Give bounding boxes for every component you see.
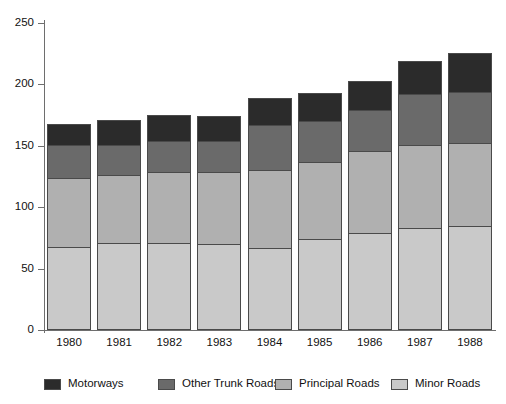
bar-segment-motorways[interactable] <box>348 81 392 110</box>
bar-segment-other-trunk-roads[interactable] <box>448 92 492 144</box>
bar-segment-minor-roads[interactable] <box>448 226 492 330</box>
bar-segment-other-trunk-roads[interactable] <box>197 141 241 172</box>
bottom-spacer <box>0 400 506 404</box>
bar-segment-minor-roads[interactable] <box>47 247 91 331</box>
bar-segment-minor-roads[interactable] <box>147 243 191 330</box>
bar-segment-other-trunk-roads[interactable] <box>398 94 442 144</box>
bar-segment-other-trunk-roads[interactable] <box>47 145 91 178</box>
bar-segment-other-trunk-roads[interactable] <box>147 141 191 172</box>
bar-segment-principal-roads[interactable] <box>197 172 241 244</box>
bar-segment-minor-roads[interactable] <box>398 228 442 330</box>
bar-segment-minor-roads[interactable] <box>197 244 241 330</box>
legend-swatch-icon <box>44 379 61 390</box>
legend-label: Other Trunk Roads <box>182 378 279 390</box>
bar-segment-principal-roads[interactable] <box>248 170 292 247</box>
legend-label: Motorways <box>68 378 124 390</box>
plot-area <box>44 23 495 330</box>
bar-segment-minor-roads[interactable] <box>248 248 292 330</box>
bar-segment-other-trunk-roads[interactable] <box>298 121 342 162</box>
bar-1982[interactable] <box>147 115 191 330</box>
bar-segment-motorways[interactable] <box>248 98 292 125</box>
bar-segment-motorways[interactable] <box>398 61 442 94</box>
bar-1983[interactable] <box>197 116 241 330</box>
bar-segment-other-trunk-roads[interactable] <box>248 125 292 170</box>
bar-segment-other-trunk-roads[interactable] <box>97 145 141 176</box>
legend-item-motorways[interactable]: Motorways <box>44 376 124 392</box>
bar-segment-motorways[interactable] <box>97 120 141 145</box>
bar-segment-motorways[interactable] <box>147 115 191 141</box>
bar-1988[interactable] <box>448 53 492 330</box>
chart-legend: MotorwaysOther Trunk RoadsPrincipal Road… <box>0 372 506 396</box>
bar-segment-principal-roads[interactable] <box>348 151 392 233</box>
bar-segment-principal-roads[interactable] <box>298 162 342 239</box>
bar-segment-other-trunk-roads[interactable] <box>348 110 392 151</box>
x-axis-line <box>43 330 496 331</box>
x-axis-label-1988: 1988 <box>440 337 500 349</box>
bar-1986[interactable] <box>348 81 392 330</box>
bar-1985[interactable] <box>298 93 342 330</box>
bar-segment-principal-roads[interactable] <box>97 175 141 243</box>
y-axis-tick-label: 100 <box>0 201 34 213</box>
legend-label: Principal Roads <box>299 378 380 390</box>
y-axis-tick <box>38 330 44 331</box>
y-axis-tick-label: 50 <box>0 263 34 275</box>
bar-segment-principal-roads[interactable] <box>147 172 191 243</box>
stacked-bar-chart: 250200150100500 198019811982198319841985… <box>0 0 506 404</box>
legend-swatch-icon <box>158 379 175 390</box>
bar-segment-minor-roads[interactable] <box>97 243 141 330</box>
y-axis-tick-label: 200 <box>0 78 34 90</box>
bar-1981[interactable] <box>97 120 141 330</box>
bar-segment-motorways[interactable] <box>298 93 342 121</box>
bar-1987[interactable] <box>398 61 442 330</box>
bar-1984[interactable] <box>248 98 292 330</box>
bar-1980[interactable] <box>47 124 91 330</box>
y-axis-tick-label: 0 <box>0 324 34 336</box>
legend-item-minor-roads[interactable]: Minor Roads <box>391 376 480 392</box>
bar-segment-motorways[interactable] <box>448 53 492 92</box>
legend-swatch-icon <box>275 379 292 390</box>
legend-label: Minor Roads <box>415 378 480 390</box>
y-axis-tick-label: 150 <box>0 140 34 152</box>
legend-item-other-trunk-roads[interactable]: Other Trunk Roads <box>158 376 279 392</box>
bar-segment-principal-roads[interactable] <box>398 145 442 229</box>
bar-segment-principal-roads[interactable] <box>448 143 492 225</box>
legend-swatch-icon <box>391 379 408 390</box>
bar-segment-minor-roads[interactable] <box>298 239 342 330</box>
bar-segment-minor-roads[interactable] <box>348 233 392 330</box>
bar-segment-principal-roads[interactable] <box>47 178 91 247</box>
legend-item-principal-roads[interactable]: Principal Roads <box>275 376 380 392</box>
y-axis-tick-label: 250 <box>0 17 34 29</box>
bar-segment-motorways[interactable] <box>197 116 241 141</box>
bar-segment-motorways[interactable] <box>47 124 91 145</box>
